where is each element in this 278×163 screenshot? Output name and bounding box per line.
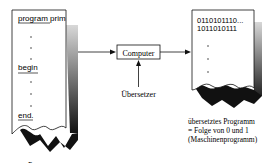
machine-caption-2: = Folge von 0 und 1 [188,126,249,135]
machine-line-2: 1011010111 [197,24,237,33]
translator-label: Übersetzer [121,90,156,99]
compilation-diagram: program prim begin end. Programm Compute… [0,0,278,163]
machine-caption-1: übersetztes Programm [188,117,255,126]
arrow-to-computer [78,50,116,55]
source-program-page [12,10,78,152]
source-caption: Programm [28,161,63,163]
arrow-from-translator [136,60,141,87]
arrow-to-machine-program [160,50,191,55]
source-line-begin: begin [18,63,38,72]
source-line-end: end. [18,111,34,120]
source-line-program: program prim [18,14,66,23]
machine-caption-3: (Maschinenprogramm) [188,135,258,144]
computer-label: Computer [123,49,155,58]
